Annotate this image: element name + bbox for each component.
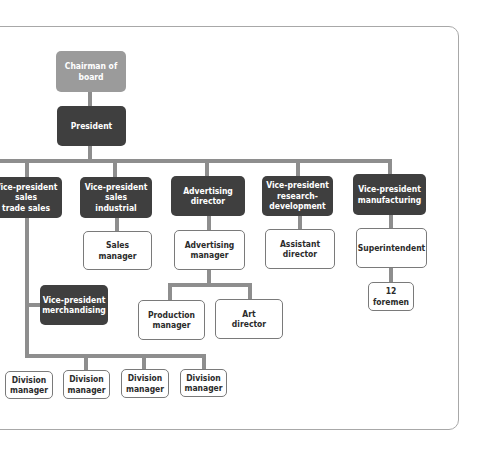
connector-division-2 <box>84 354 88 370</box>
connector-adv-dir-mgr <box>207 216 211 230</box>
connector-adv-director <box>205 159 209 176</box>
connector-mfg-super <box>389 215 393 228</box>
node-art-director: Art director <box>215 299 283 339</box>
node-vp-research: Vice-president research- development <box>262 176 333 216</box>
connector-division-bar <box>25 354 206 358</box>
connector-vp-bar <box>0 159 392 163</box>
node-vp-manufacturing: Vice-president manufacturing <box>353 174 426 215</box>
node-chairman: Chairman of board <box>56 51 126 92</box>
node-vp-sales-industrial: Vice-president sales industrial <box>80 177 152 218</box>
connector-art <box>248 283 252 299</box>
connector-division-3 <box>142 354 146 369</box>
connector-vp-manufacturing <box>388 159 392 174</box>
connector-adv-bar <box>168 283 252 287</box>
node-production-manager: Production manager <box>138 300 205 340</box>
connector-production <box>168 283 172 300</box>
node-assistant-director: Assistant director <box>265 229 335 269</box>
node-advertising-manager: Advertising manager <box>174 230 245 270</box>
node-division-manager-3: Division manager <box>121 369 169 398</box>
connector-merchandising <box>25 303 41 307</box>
node-vp-sales-trade: Vice-president sales trade sales <box>0 177 62 218</box>
connector-division-4 <box>202 354 206 369</box>
node-division-manager-1: Division manager <box>5 371 53 399</box>
connector-vp-trade <box>25 159 29 177</box>
connector-trade-down <box>25 218 29 358</box>
node-division-manager-2: Division manager <box>63 370 110 399</box>
connector-industrial-sales-mgr <box>115 218 119 231</box>
node-vp-merchandising: Vice-president merchandising <box>40 285 108 325</box>
connector-chairman-president <box>88 92 92 106</box>
node-president: President <box>57 106 126 146</box>
node-sales-manager: Sales manager <box>83 231 152 270</box>
node-division-manager-4: Division manager <box>180 369 227 397</box>
connector-research-assistant <box>298 216 302 229</box>
node-superintendent: Superintendent <box>356 228 427 268</box>
connector-vp-research <box>296 159 300 176</box>
connector-super-foremen <box>389 268 393 282</box>
connector-vp-industrial <box>113 159 117 177</box>
node-12-foremen: 12 foremen <box>368 282 414 311</box>
node-advertising-director: Advertising director <box>171 176 245 216</box>
